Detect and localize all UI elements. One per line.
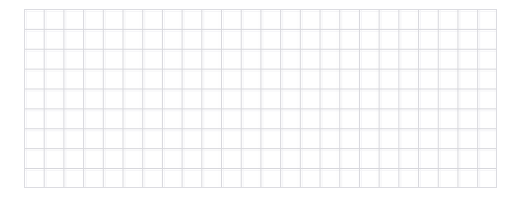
grid-major-lines [24,9,497,188]
screenshot-canvas [0,0,521,199]
empty-grid-sheet[interactable] [24,9,497,188]
